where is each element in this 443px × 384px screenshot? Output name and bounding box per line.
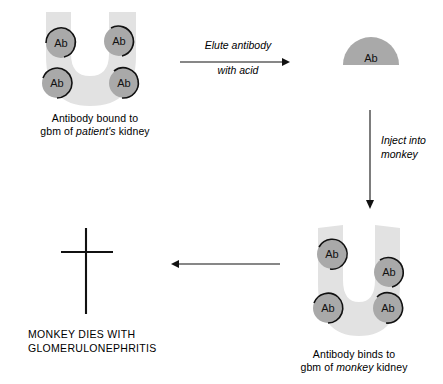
antibody-label: Ab	[50, 77, 63, 89]
caption-line-2: gbm of monkey kidney	[265, 361, 443, 374]
caption-prefix: gbm of	[40, 125, 76, 137]
elute-arrow-label-below: with acid	[178, 63, 298, 77]
inject-label-line-1: Inject into	[381, 133, 443, 147]
antibody-marker: Ab	[104, 26, 134, 56]
monkey-kidney-caption: Antibody binds to gbm of monkey kidney	[265, 348, 443, 374]
antibody-marker: Ab	[374, 257, 404, 287]
caption-line-2: gbm of patient's kidney	[0, 125, 190, 138]
patient-kidney-figure: Ab Ab Ab Ab	[24, 10, 159, 108]
inject-arrow-svg	[364, 110, 376, 210]
death-cross-svg	[58, 226, 128, 316]
outcome-arrow	[170, 258, 280, 270]
caption-suffix: kidney	[116, 125, 150, 137]
diagram-canvas: Ab Ab Ab Ab	[0, 0, 443, 384]
caption-emphasis: patient's	[76, 125, 116, 137]
antibody-label: Ab	[325, 248, 338, 260]
antibody-label: Ab	[54, 37, 67, 49]
monkey-death-caption: MONKEY DIES WITH GLOMERULONEPHRITIS	[28, 328, 208, 355]
antibody-label: Ab	[117, 77, 130, 89]
death-caption-line-1: MONKEY DIES WITH	[28, 328, 208, 342]
patient-kidney-caption: Antibody bound to gbm of patient's kidne…	[0, 112, 190, 138]
antibody-marker: Ab	[42, 68, 72, 98]
elute-arrow-label-above: Elute antibody	[178, 38, 298, 52]
patient-kidney-svg: Ab Ab Ab Ab	[24, 10, 159, 108]
inject-arrow-label: Inject into monkey	[381, 133, 443, 161]
caption-line-1: Antibody bound to	[0, 112, 190, 125]
eluted-antibody-figure: Ab	[342, 36, 400, 68]
antibody-label: Ab	[321, 302, 334, 314]
outcome-arrow-svg	[170, 258, 280, 270]
death-cross-figure	[58, 226, 128, 316]
antibody-label: Ab	[381, 302, 394, 314]
eluted-antibody-svg: Ab	[342, 36, 400, 68]
inject-label-line-2: monkey	[381, 147, 443, 161]
antibody-marker: Ab	[373, 293, 403, 323]
antibody-marker: Ab	[109, 68, 139, 98]
antibody-label: Ab	[364, 52, 377, 64]
monkey-kidney-figure: Ab Ab Ab Ab	[300, 222, 418, 340]
monkey-kidney-svg: Ab Ab Ab Ab	[300, 222, 418, 340]
antibody-marker: Ab	[46, 28, 76, 58]
inject-arrow	[364, 110, 376, 210]
antibody-label: Ab	[382, 266, 395, 278]
caption-emphasis: monkey	[336, 361, 373, 373]
caption-prefix: gbm of	[300, 361, 336, 373]
caption-suffix: kidney	[374, 361, 408, 373]
antibody-marker: Ab	[317, 239, 347, 269]
antibody-marker: Ab	[313, 293, 343, 323]
caption-line-1: Antibody binds to	[265, 348, 443, 361]
death-caption-line-2: GLOMERULONEPHRITIS	[28, 342, 208, 356]
antibody-label: Ab	[112, 35, 125, 47]
